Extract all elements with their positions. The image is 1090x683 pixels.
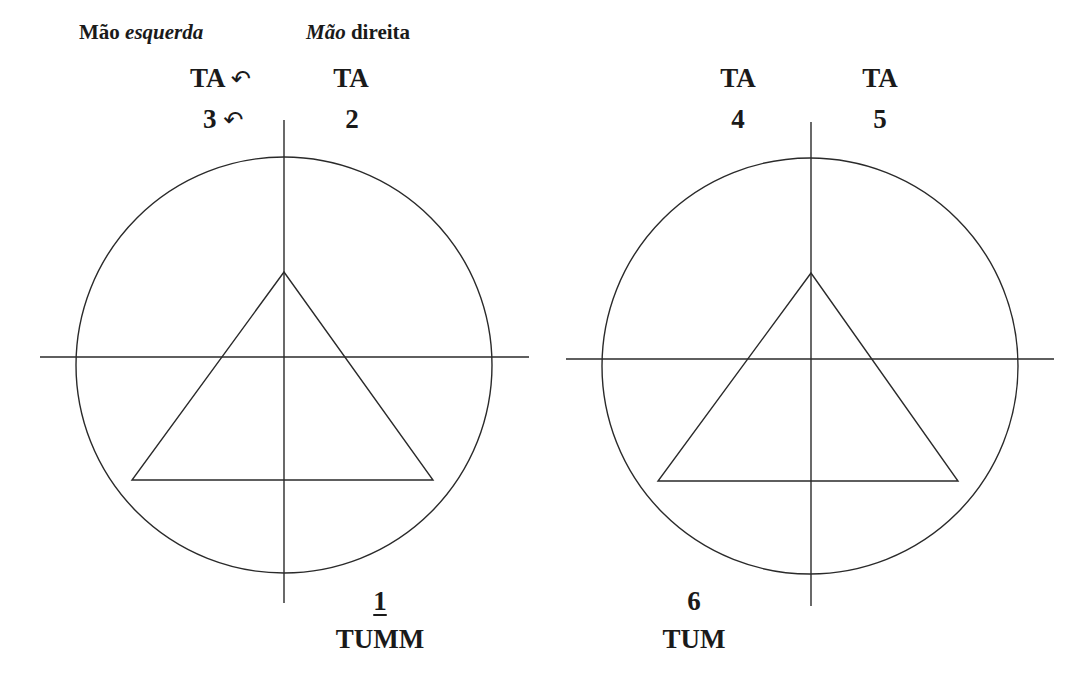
left-top-left-syllable-row: TA ↶	[190, 65, 251, 92]
right-bottom-count: 6	[687, 588, 701, 615]
right-hand-word2: direita	[351, 20, 410, 44]
left-top-right-syllable: TA	[333, 65, 369, 92]
left-top-left-count: 3	[203, 104, 217, 134]
right-circle	[602, 158, 1018, 574]
counterclockwise-arrow-icon: ↶	[223, 106, 243, 134]
left-triangle	[132, 272, 433, 480]
right-hand-word1: Mão	[306, 20, 346, 44]
left-top-left-count-row: 3 ↶	[203, 106, 243, 133]
right-top-left-count: 4	[731, 106, 745, 133]
right-top-right-count: 5	[873, 106, 887, 133]
left-diagram	[40, 120, 529, 603]
left-bottom-syllable: TUMM	[336, 626, 424, 653]
right-triangle	[658, 273, 958, 481]
left-bottom-count: 1	[373, 588, 387, 615]
left-hand-word2: esquerda	[125, 20, 203, 44]
right-hand-heading: Mão direita	[306, 22, 410, 43]
right-bottom-syllable: TUM	[663, 626, 726, 653]
left-top-right-count: 2	[345, 106, 359, 133]
right-top-left-syllable: TA	[720, 65, 756, 92]
right-top-right-syllable: TA	[862, 65, 898, 92]
left-hand-word1: Mão	[79, 20, 120, 44]
counterclockwise-arrow-icon: ↶	[231, 65, 251, 93]
right-diagram	[566, 122, 1054, 606]
rhythm-diagram-canvas	[0, 0, 1090, 683]
left-top-left-syllable: TA	[190, 63, 224, 93]
left-hand-heading: Mão esquerda	[79, 22, 203, 43]
